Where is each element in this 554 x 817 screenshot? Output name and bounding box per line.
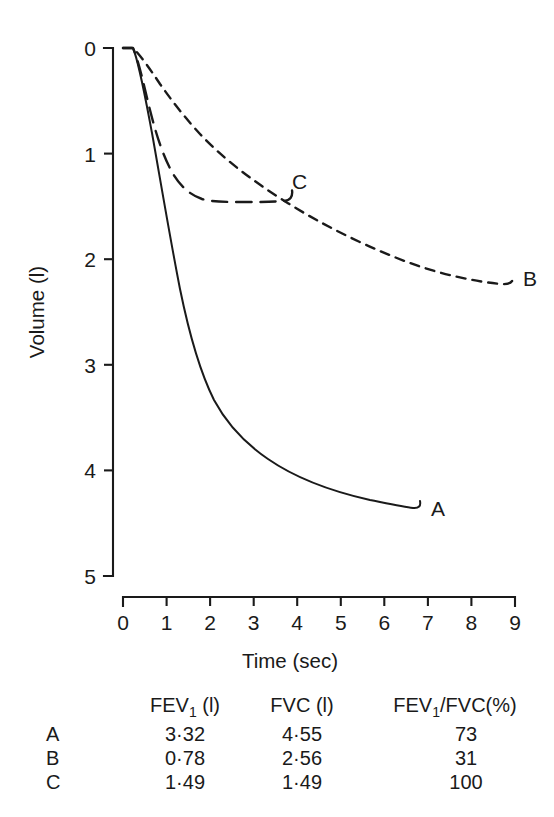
curve-label-b: B: [523, 267, 537, 290]
table-row: B 0·78 2·56 31: [46, 747, 477, 769]
x-tick-label-0: 0: [117, 611, 129, 634]
curve-a-path: [123, 48, 420, 508]
curve-label-a: A: [431, 497, 445, 520]
x-tick-label-1: 1: [161, 611, 173, 634]
x-tick-label-2: 2: [204, 611, 216, 634]
table-header-fev1: FEV1 (l): [150, 694, 220, 720]
table-cell-fvc: 4·55: [282, 723, 322, 745]
y-tick-label-1: 1: [84, 143, 96, 166]
table-cell-ratio: 100: [449, 771, 482, 793]
table-row: C 1·49 1·49 100: [46, 771, 483, 793]
x-tick-label-6: 6: [378, 611, 390, 634]
table-header-fvc: FVC (l): [270, 694, 333, 716]
y-tick-label-0: 0: [84, 37, 96, 60]
x-axis-title: Time (sec): [242, 649, 338, 672]
table-cell-fvc: 1·49: [282, 771, 322, 793]
table-cell-ratio: 73: [455, 723, 477, 745]
table-row: A 3·32 4·55 73: [46, 723, 477, 745]
x-tick-label-3: 3: [248, 611, 260, 634]
curve-c-path: [123, 48, 292, 202]
x-axis-line: [123, 597, 515, 606]
table-row-name: C: [46, 771, 60, 793]
y-axis-line: [104, 48, 113, 576]
x-tick-label-4: 4: [291, 611, 303, 634]
y-tick-label-2: 2: [84, 248, 96, 271]
table-cell-fev1: 1·49: [165, 771, 205, 793]
x-tick-label-7: 7: [422, 611, 434, 634]
spirometry-figure: 0 1 2 3 4 5 Volume (l) A B C 0 1 2 3: [0, 0, 554, 817]
y-tick-label-3: 3: [84, 354, 96, 377]
table-row-name: A: [46, 723, 60, 745]
curve-b-path: [123, 48, 513, 284]
table-cell-ratio: 31: [455, 747, 477, 769]
curve-label-c: C: [292, 170, 307, 193]
table-cell-fev1: 3·32: [165, 723, 205, 745]
x-tick-label-9: 9: [509, 611, 521, 634]
spirometry-chart: 0 1 2 3 4 5 Volume (l) A B C 0 1 2 3: [0, 0, 554, 817]
table-cell-fev1: 0·78: [165, 747, 205, 769]
table-row-name: B: [46, 747, 59, 769]
y-tick-label-4: 4: [84, 459, 96, 482]
table-cell-fvc: 2·56: [282, 747, 322, 769]
y-axis-title: Volume (l): [25, 266, 48, 358]
y-tick-label-5: 5: [84, 565, 96, 588]
x-tick-label-8: 8: [466, 611, 478, 634]
table-header-ratio: FEV1/FVC(%): [393, 694, 516, 720]
x-tick-label-5: 5: [335, 611, 347, 634]
